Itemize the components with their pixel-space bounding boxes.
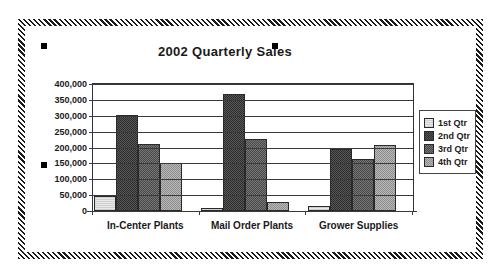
y-axis-tick xyxy=(89,100,93,101)
legend-label: 3rd Qtr xyxy=(438,144,468,154)
y-axis-tick-label: 300,000 xyxy=(54,111,87,121)
bar-chart: 2002 Quarterly Sales 050,000100,000150,0… xyxy=(25,26,476,252)
gridline xyxy=(93,163,413,164)
x-axis-category-label: In-Center Plants xyxy=(90,219,200,232)
chart-legend: 1st Qtr2nd Qtr3rd Qtr4th Qtr xyxy=(419,110,476,174)
legend-swatch-icon xyxy=(424,157,434,167)
bar[interactable] xyxy=(94,196,116,211)
resize-handle-top-left[interactable] xyxy=(41,43,47,49)
legend-label: 1st Qtr xyxy=(438,118,467,128)
x-axis-category-label: Mail Order Plants xyxy=(197,219,307,232)
bar[interactable] xyxy=(267,202,289,211)
y-axis-tick-label: 350,000 xyxy=(54,95,87,105)
chart-title: 2002 Quarterly Sales xyxy=(25,44,425,59)
x-axis-line xyxy=(87,211,417,212)
x-axis-tick xyxy=(305,211,306,215)
legend-item[interactable]: 2nd Qtr xyxy=(424,130,470,141)
legend-swatch-icon xyxy=(424,131,434,141)
y-axis-tick xyxy=(89,163,93,164)
gridline xyxy=(93,116,413,117)
chart-selection-frame[interactable]: 2002 Quarterly Sales 050,000100,000150,0… xyxy=(18,19,483,259)
legend-label: 4th Qtr xyxy=(438,157,468,167)
y-axis-tick-label: 100,000 xyxy=(54,174,87,184)
y-axis-tick-label: 250,000 xyxy=(54,127,87,137)
bar[interactable] xyxy=(138,144,160,211)
bar[interactable] xyxy=(245,139,267,211)
chart-canvas: 2002 Quarterly Sales 050,000100,000150,0… xyxy=(25,26,476,252)
x-axis-tick xyxy=(199,211,200,215)
y-axis-tick xyxy=(89,132,93,133)
resize-handle-top-center[interactable] xyxy=(272,43,278,49)
legend-swatch-icon xyxy=(424,144,434,154)
legend-swatch-icon xyxy=(424,118,434,128)
gridline xyxy=(93,179,413,180)
x-axis-tick xyxy=(412,211,413,215)
y-axis-tick xyxy=(89,195,93,196)
bar[interactable] xyxy=(374,145,396,211)
bar[interactable] xyxy=(160,163,182,211)
gridline xyxy=(93,84,413,85)
resize-handle-middle-left[interactable] xyxy=(41,162,47,168)
x-axis-tick xyxy=(92,211,93,215)
gridline xyxy=(93,195,413,196)
y-axis-tick xyxy=(89,179,93,180)
y-axis-tick-label: 200,000 xyxy=(54,143,87,153)
gridline xyxy=(93,132,413,133)
legend-item[interactable]: 4th Qtr xyxy=(424,156,470,167)
gridline xyxy=(93,100,413,101)
plot-area: 050,000100,000150,000200,000250,000300,0… xyxy=(92,83,414,212)
legend-item[interactable]: 3rd Qtr xyxy=(424,143,470,154)
gridline xyxy=(93,148,413,149)
y-axis-tick xyxy=(89,116,93,117)
y-axis-tick-label: 50,000 xyxy=(59,190,87,200)
y-axis-tick xyxy=(89,148,93,149)
y-axis-tick xyxy=(89,84,93,85)
legend-item[interactable]: 1st Qtr xyxy=(424,117,470,128)
y-axis-tick-label: 400,000 xyxy=(54,79,87,89)
legend-label: 2nd Qtr xyxy=(438,131,470,141)
bar[interactable] xyxy=(352,159,374,211)
x-axis-category-label: Grower Supplies xyxy=(304,219,414,232)
y-axis-tick-label: 150,000 xyxy=(54,158,87,168)
bar[interactable] xyxy=(223,94,245,211)
